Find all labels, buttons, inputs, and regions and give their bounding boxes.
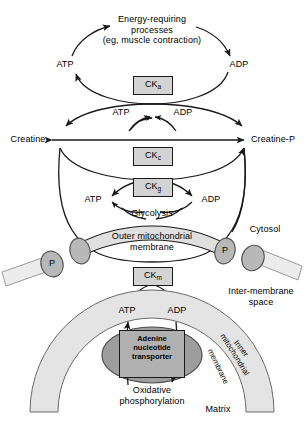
creatine-p-label: Creatine-P <box>244 134 302 145</box>
porin-left-label: P <box>46 258 58 268</box>
top-adp-label: ADP <box>222 59 256 70</box>
creatine-kinase-shuttle-diagram: Energy-requiring processes (eg, muscle c… <box>0 0 304 426</box>
cytosolic-adp-label: ADP <box>166 107 200 118</box>
glycolysis-label: Glycolysis <box>118 208 186 219</box>
oxidative-phosphorylation-label: Oxidative phosphorylation <box>84 385 220 406</box>
outer-membrane-label: Outer mitochondrial membrane <box>92 231 212 252</box>
transporter-line-2: nucleotide <box>133 343 171 352</box>
inter-membrane-line-1: Inter-membrane <box>228 286 293 296</box>
process-line-2: processes <box>131 25 173 35</box>
top-atp-label: ATP <box>48 59 82 70</box>
outer-membrane-line-2: membrane <box>130 242 174 252</box>
porin-right-outer <box>238 242 268 274</box>
ck-c-label: CK <box>145 150 158 160</box>
ck-g-box: CKg <box>133 178 173 197</box>
porin-right-label: P <box>219 245 231 255</box>
ck-g-label: CK <box>145 181 158 191</box>
process-line-3: (eg, muscle contraction) <box>103 35 201 45</box>
creatine-label: Creatine <box>4 134 52 145</box>
matrix-label: Matrix <box>196 404 240 415</box>
ck-g-subscript: g <box>157 185 161 192</box>
matrix-adp-label: ADP <box>160 305 194 316</box>
oxphos-line-1: Oxidative <box>133 385 171 395</box>
inter-membrane-line-2: space <box>249 297 274 307</box>
inter-membrane-space-label: Inter-membrane space <box>218 286 304 307</box>
ck-m-box: CKm <box>133 267 173 286</box>
cytosolic-atp-label: ATP <box>104 107 138 118</box>
matrix-atp-label: ATP <box>110 305 144 316</box>
oxphos-line-2: phosphorylation <box>119 396 184 406</box>
energy-requiring-processes-label: Energy-requiring processes (eg, muscle c… <box>78 14 226 46</box>
cytosol-label: Cytosol <box>242 224 288 235</box>
ck-c-subscript: c <box>158 154 161 161</box>
process-line-1: Energy-requiring <box>118 14 186 24</box>
ck-a-subscript: a <box>157 83 161 90</box>
ck-c-box: CKc <box>133 147 173 166</box>
ck-m-label: CK <box>144 270 157 280</box>
glycolysis-atp-label: ATP <box>76 194 110 205</box>
ck-a-box: CKa <box>133 76 173 95</box>
cytosolic-ck-cycle-arrows <box>52 104 244 180</box>
outer-membrane-line-1: Outer mitochondrial <box>112 231 192 241</box>
glycolysis-adp-label: ADP <box>194 194 228 205</box>
ck-a-label: CK <box>145 79 158 89</box>
transporter-line-1: Adenine <box>137 334 167 343</box>
transporter-line-3: transporter <box>132 352 172 361</box>
adenine-nucleotide-transporter-box: Adenine nucleotide transporter <box>119 330 185 378</box>
left-membrane-stub <box>2 258 46 286</box>
ck-m-subscript: m <box>157 274 162 281</box>
